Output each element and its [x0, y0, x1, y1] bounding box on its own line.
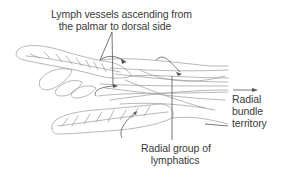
label-radial-bundle-line2: bundle	[232, 105, 267, 117]
diagram-canvas: Lymph vessels ascending from the palmar …	[0, 0, 285, 181]
right-arrow-icon	[252, 88, 258, 92]
label-radial-group-line2: lymphatics	[141, 154, 209, 166]
label-radial-bundle-line3: territory	[232, 117, 267, 129]
label-radial-bundle-line1: Radial	[232, 93, 267, 105]
label-radial-bundle-territory: Radial bundle territory	[232, 93, 267, 129]
label-ascending-lymph-vessels: Lymph vessels ascending from the palmar …	[51, 8, 179, 32]
label-ascending-line2: the palmar to dorsal side	[51, 20, 179, 32]
middle-finger-outline	[39, 69, 72, 90]
label-radial-group-lymphatics: Radial group of lymphatics	[141, 142, 209, 166]
leader-ascending-1	[100, 32, 112, 60]
label-radial-group-line1: Radial group of	[141, 142, 209, 154]
label-ascending-line1: Lymph vessels ascending from	[51, 8, 179, 20]
arrowhead-2	[176, 72, 182, 76]
leader-radial-bundle	[205, 124, 228, 126]
index-finger-outline	[16, 46, 132, 79]
little-finger-outline	[71, 86, 96, 98]
curved-arrow-2	[156, 57, 180, 72]
